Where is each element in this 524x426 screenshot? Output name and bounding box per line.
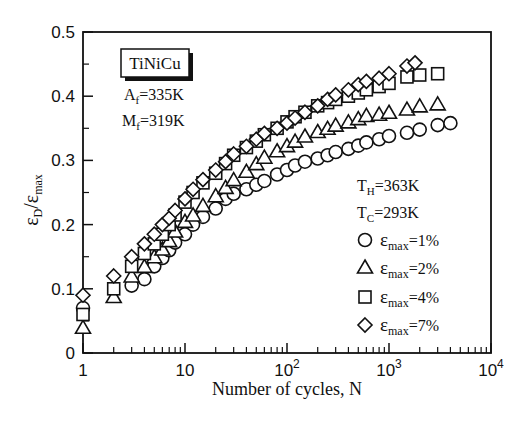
circle-data-point: [431, 119, 444, 132]
square-data-point: [108, 283, 120, 295]
triangle-data-point: [399, 102, 414, 115]
y-tick-label: 0.1: [51, 280, 75, 299]
af-symbol: A: [124, 86, 136, 103]
square-marker-icon: [359, 291, 371, 303]
circle-data-point: [383, 130, 396, 143]
legend-epsilon: ε: [380, 229, 388, 250]
legend-sub: max: [388, 296, 409, 310]
triangle-data-point: [328, 118, 343, 131]
chart: 00.10.20.30.40.5110102103104 TiNiCu Af=3…: [0, 0, 524, 426]
af-value: =335K: [139, 86, 184, 103]
y-axis-label: εD/εmax: [20, 174, 45, 226]
square-data-point: [432, 68, 444, 80]
diamond-data-point: [76, 288, 90, 302]
th-symbol: T: [357, 177, 367, 194]
ylabel-sub-max: max: [31, 174, 45, 195]
diamond-marker-icon: [358, 318, 372, 332]
circle-marker-icon: [359, 234, 372, 247]
legend-epsilon: ε: [380, 314, 388, 335]
svg-text:Af=335K: Af=335K: [124, 86, 184, 106]
triangle-data-point: [382, 105, 397, 118]
circle-data-point: [329, 146, 342, 159]
ylabel-epsilon-2: ε: [20, 195, 42, 203]
legend-sub: max: [388, 267, 409, 281]
y-tick-label: 0.4: [51, 87, 75, 106]
square-data-point: [414, 69, 426, 81]
circle-data-point: [444, 117, 457, 130]
th-annotation: TH=363K: [357, 177, 420, 197]
material-label: TiNiCu: [129, 54, 181, 73]
x-axis-label: Number of cycles, N: [212, 379, 362, 399]
material-annotation: TiNiCu: [121, 49, 193, 81]
tc-annotation: TC=293K: [357, 204, 419, 224]
circle-data-point: [400, 126, 413, 139]
y-tick-label: 0: [66, 344, 75, 363]
tc-value: =293K: [374, 204, 419, 221]
svg-text:εmax=2%: εmax=2%: [380, 257, 439, 281]
x-tick-label: 103: [376, 357, 402, 380]
legend-value: =2%: [409, 260, 439, 277]
legend-sub: max: [388, 324, 409, 338]
svg-text:TC=293K: TC=293K: [357, 204, 419, 224]
tc-symbol: T: [357, 204, 367, 221]
legend-value: =7%: [409, 317, 439, 334]
mf-value: =319K: [140, 112, 185, 129]
svg-text:εD/εmax: εD/εmax: [20, 174, 45, 226]
legend-item-1pct: εmax=1%: [359, 229, 440, 253]
th-subscript: H: [367, 185, 375, 197]
mf-symbol: M: [122, 112, 136, 129]
legend-item-2pct: εmax=2%: [358, 257, 440, 281]
ylabel-sub-d: D: [31, 208, 45, 217]
circle-data-point: [360, 136, 373, 149]
triangle-data-point: [297, 129, 312, 142]
circle-data-point: [298, 155, 311, 168]
ylabel-epsilon: ε: [20, 217, 42, 225]
x-tick-label: 102: [274, 357, 300, 380]
y-tick-label: 0.2: [51, 216, 75, 235]
af-annotation: Af=335K: [124, 86, 184, 106]
legend-value: =1%: [409, 232, 439, 249]
legend-item-4pct: εmax=4%: [359, 286, 439, 310]
circle-data-point: [209, 202, 222, 215]
square-data-point: [77, 308, 89, 320]
svg-text:Mf=319K: Mf=319K: [122, 112, 185, 132]
legend-epsilon: ε: [380, 286, 388, 307]
triangle-data-point: [430, 97, 445, 110]
svg-text:TH=363K: TH=363K: [357, 177, 420, 197]
svg-text:εmax=7%: εmax=7%: [380, 314, 439, 338]
svg-text:εmax=4%: εmax=4%: [380, 286, 439, 310]
triangle-data-point: [226, 173, 241, 186]
y-tick-label: 0.3: [51, 151, 75, 170]
triangle-data-point: [412, 99, 427, 112]
diamond-data-point: [107, 269, 121, 283]
legend-item-7pct: εmax=7%: [358, 314, 439, 338]
y-tick-label: 0.5: [51, 23, 75, 42]
tc-subscript: C: [367, 212, 374, 224]
circle-data-point: [138, 273, 151, 286]
circle-data-point: [258, 174, 271, 187]
x-tick-label: 104: [478, 357, 504, 380]
legend-value: =4%: [409, 289, 439, 306]
circle-data-point: [413, 123, 426, 136]
legend-epsilon: ε: [380, 257, 388, 278]
triangle-data-point: [76, 320, 91, 333]
triangle-marker-icon: [358, 260, 373, 273]
svg-text:εmax=1%: εmax=1%: [380, 229, 439, 253]
legend: εmax=1% εmax=2% εmax=4% εmax=7%: [358, 229, 440, 338]
x-tick-label: 1: [78, 361, 87, 380]
legend-sub: max: [388, 239, 409, 253]
x-tick-label: 10: [176, 361, 195, 380]
mf-annotation: Mf=319K: [122, 112, 185, 132]
th-value: =363K: [375, 177, 420, 194]
